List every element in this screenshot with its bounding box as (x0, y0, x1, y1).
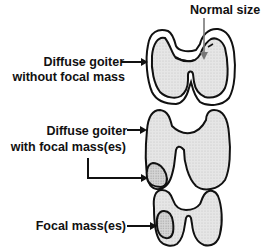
label-normal-size: Normal size (190, 3, 260, 17)
label-diffuse-goiter-no-mass-line1: Diffuse goiter (43, 55, 124, 69)
diffuse-goiter-with-mass (146, 110, 230, 189)
arrow-focal-mass (127, 222, 157, 230)
label-diffuse-goiter-with-mass-line2: with focal mass(es) (11, 140, 126, 154)
label-diffuse-goiter-with-mass-line1: Diffuse goiter (46, 124, 127, 138)
elbow-arrow-to-mass (88, 158, 148, 182)
focal-mass (157, 211, 174, 238)
thyroid-with-focal-mass (154, 190, 222, 246)
thyroid-diagram (0, 0, 262, 252)
label-diffuse-goiter-no-mass-line2: without focal mass (12, 70, 125, 84)
label-focal-masses: Focal mass(es) (36, 219, 126, 233)
arrow-diffuse-no-mass (121, 58, 148, 66)
arrow-diffuse-with-mass (127, 126, 147, 134)
